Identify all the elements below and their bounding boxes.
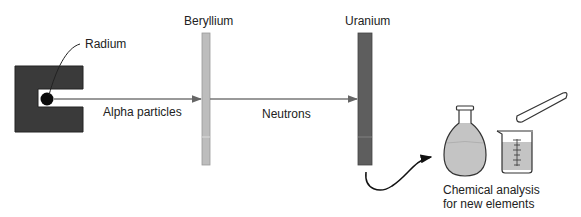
uranium-label: Uranium bbox=[345, 14, 390, 28]
flask-icon bbox=[444, 106, 486, 176]
analysis-curve-arrow bbox=[366, 157, 431, 190]
test-tube-icon bbox=[517, 93, 567, 123]
uranium-target bbox=[358, 33, 372, 165]
beaker-icon bbox=[497, 131, 533, 173]
radium-label: Radium bbox=[85, 37, 126, 51]
neutrons-label: Neutrons bbox=[262, 107, 311, 121]
analysis-label-line1: Chemical analysis bbox=[443, 183, 540, 197]
alpha-particles-label: Alpha particles bbox=[103, 105, 182, 119]
analysis-label-line2: for new elements bbox=[443, 197, 534, 211]
beryllium-label: Beryllium bbox=[184, 14, 233, 28]
beryllium-target bbox=[202, 33, 210, 165]
radium-sample bbox=[41, 93, 54, 106]
